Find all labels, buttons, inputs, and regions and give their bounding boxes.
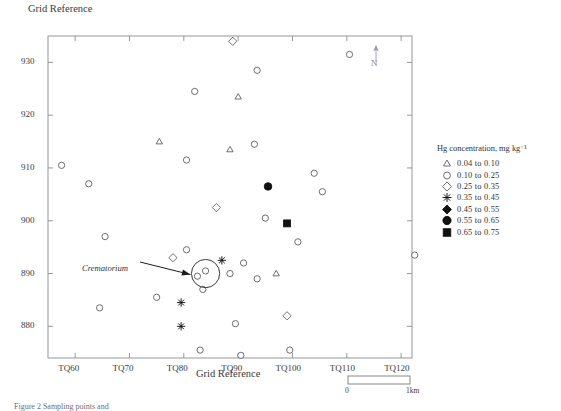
data-point-marker <box>169 254 177 262</box>
legend-entry-label: 0.65 to 0.75 <box>457 228 499 237</box>
data-point-marker <box>58 162 64 168</box>
data-point-marker <box>197 347 203 353</box>
data-point-marker <box>183 157 189 163</box>
data-point-marker <box>251 141 257 147</box>
legend-symbol-circle-open-icon <box>437 170 457 181</box>
legend-entry: 0.04 to 0.10 <box>437 158 559 169</box>
data-point-marker <box>295 239 301 245</box>
data-point-marker <box>212 203 220 211</box>
data-point-marker <box>194 273 200 279</box>
y-axis-tick-label: 900 <box>21 215 35 225</box>
data-point-marker <box>227 146 233 151</box>
data-point-marker <box>86 181 92 187</box>
data-point-marker <box>254 67 260 73</box>
y-axis-tick-label: 880 <box>21 320 35 330</box>
legend-symbol-diamond-filled-icon <box>437 204 457 215</box>
data-point-marker <box>412 252 418 258</box>
legend-symbol-diamond-open-icon <box>437 181 457 192</box>
y-axis-tick-label: 920 <box>21 109 35 119</box>
legend-entry-label: 0.10 to 0.25 <box>457 171 499 180</box>
x-axis-tick-label: TQ110 <box>330 363 355 373</box>
data-point-marker <box>311 170 317 176</box>
legend-entry: 0.35 to 0.45 <box>437 192 559 203</box>
x-axis-tick-label: TQ80 <box>167 363 188 373</box>
x-axis-tick-label: TQ70 <box>112 363 133 373</box>
legend-entry: 0.65 to 0.75 <box>437 226 559 237</box>
legend-symbol-circle-filled-icon <box>437 215 457 226</box>
legend-entry-list: 0.04 to 0.100.10 to 0.250.25 to 0.350.35… <box>437 158 559 238</box>
data-point-marker <box>240 260 246 266</box>
legend-entry: 0.45 to 0.55 <box>437 204 559 215</box>
legend: Hg concentration, mg kg⁻¹ 0.04 to 0.100.… <box>437 143 559 238</box>
scale-bar-max-label: 1km <box>406 386 420 395</box>
north-arrow-label: N <box>371 58 378 68</box>
legend-entry: 0.55 to 0.65 <box>437 215 559 226</box>
data-point-marker <box>254 276 260 282</box>
legend-symbol-triangle-open-icon <box>437 158 457 169</box>
x-axis-tick-label: TQ90 <box>221 363 242 373</box>
data-point-marker <box>102 233 108 239</box>
figure-caption: Figure 2 Sampling points and <box>14 402 109 411</box>
data-point-marker <box>202 268 208 274</box>
x-axis-tick-label: TQ100 <box>275 363 301 373</box>
data-point-marker <box>346 51 352 57</box>
data-point-marker <box>96 305 102 311</box>
x-axis-tick-label: TQ60 <box>58 363 79 373</box>
data-point-marker <box>229 37 237 45</box>
x-axis-tick-label: TQ120 <box>384 363 410 373</box>
y-axis-tick-label: 890 <box>21 268 35 278</box>
data-point-marker <box>264 183 272 191</box>
legend-entry-label: 0.55 to 0.65 <box>457 216 499 225</box>
data-point-marker <box>284 220 291 227</box>
legend-entry-label: 0.04 to 0.10 <box>457 159 499 168</box>
data-point-marker <box>273 270 279 275</box>
data-point-marker <box>283 312 291 320</box>
scale-bar <box>348 376 410 384</box>
scale-bar-min-label: 0 <box>345 386 349 395</box>
figure-panel: Grid Reference N Grid Reference Cremator… <box>0 0 561 411</box>
data-point-marker <box>232 321 238 327</box>
data-point-marker <box>192 88 198 94</box>
y-axis-tick-label: 930 <box>21 56 35 66</box>
data-point-marker <box>183 247 189 253</box>
data-point-marker <box>227 270 233 276</box>
data-point-marker <box>218 256 226 264</box>
legend-symbol-asterisk-icon <box>437 192 457 203</box>
data-point-marker <box>235 94 241 99</box>
axis-title-top: Grid Reference <box>28 3 92 14</box>
legend-entry: 0.25 to 0.35 <box>437 181 559 192</box>
data-point-marker <box>177 322 185 330</box>
legend-entry-label: 0.35 to 0.45 <box>457 193 499 202</box>
data-point-marker <box>287 347 293 353</box>
data-point-marker <box>156 138 162 143</box>
crematorium-annotation-label: Crematorium <box>82 263 128 273</box>
legend-entry-label: 0.45 to 0.55 <box>457 205 499 214</box>
legend-entry-label: 0.25 to 0.35 <box>457 182 499 191</box>
legend-title: Hg concentration, mg kg⁻¹ <box>437 143 559 153</box>
data-point-marker <box>154 294 160 300</box>
y-axis-tick-label: 910 <box>21 162 35 172</box>
data-points <box>58 37 417 358</box>
annotation-leader-arrow <box>140 262 190 275</box>
legend-symbol-square-filled-icon <box>437 227 457 238</box>
legend-entry: 0.10 to 0.25 <box>437 169 559 180</box>
data-point-marker <box>262 215 268 221</box>
data-point-marker <box>238 352 244 358</box>
data-point-marker <box>319 189 325 195</box>
data-point-marker <box>177 298 185 306</box>
